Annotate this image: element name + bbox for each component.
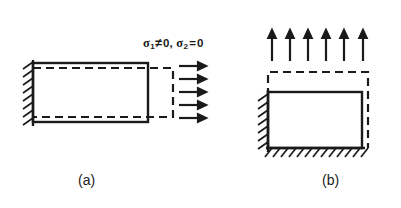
panel-b-drawing (210, 0, 401, 208)
undeformed-element-a (33, 63, 148, 122)
load-arrow-b-6 (359, 30, 366, 61)
caption-b: (b) (322, 172, 339, 188)
figure-canvas: σ1≠0, σ2=0 (0, 0, 401, 208)
not-equal-sign-a: ≠ (155, 36, 163, 50)
sigma-value-a-1: 0, (163, 37, 173, 49)
load-arrow-b-3 (304, 30, 311, 61)
load-arrow-a-4 (179, 101, 206, 108)
panel-b: σ2≠0, σ1=0 (210, 0, 401, 208)
support-hatching-b-left (258, 94, 268, 149)
load-arrows-b (268, 30, 366, 61)
load-arrows-a (179, 62, 206, 121)
panel-a: σ1≠0, σ2=0 (0, 0, 210, 208)
support-hatching-a (23, 62, 33, 125)
load-arrow-b-5 (340, 30, 347, 61)
load-arrow-a-2 (179, 75, 206, 82)
equal-sign-a: = (188, 37, 197, 49)
sigma-value-a-2: 0 (197, 37, 204, 49)
load-arrow-b-2 (286, 30, 293, 61)
load-arrow-a-5 (179, 114, 206, 121)
deformed-outline-b (268, 72, 368, 148)
stress-label-a: σ1≠0, σ2=0 (143, 36, 204, 51)
load-arrow-b-1 (268, 30, 275, 61)
panel-a-drawing (0, 0, 210, 208)
undeformed-element-b (268, 92, 362, 148)
sigma-symbol-a-1: σ (143, 36, 150, 50)
load-arrow-b-4 (322, 30, 329, 61)
caption-a: (a) (78, 172, 95, 188)
support-hatching-b-bottom (265, 148, 368, 157)
load-arrow-a-1 (179, 62, 206, 69)
load-arrow-a-3 (179, 88, 206, 95)
deformed-outline-a (33, 68, 173, 117)
